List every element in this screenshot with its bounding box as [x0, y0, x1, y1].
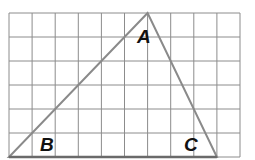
vertex-label-a: A [136, 26, 151, 47]
vertex-label-b: B [40, 134, 54, 155]
vertex-label-c: C [184, 134, 198, 155]
grid-triangle-diagram: A B C [0, 0, 255, 160]
